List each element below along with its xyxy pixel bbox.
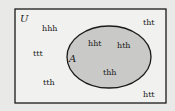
set-a-ellipse [67, 26, 151, 88]
element-inside: thh [103, 68, 117, 77]
set-a-label: A [68, 53, 76, 64]
element-outside: tth [43, 78, 55, 87]
element-inside: hht [88, 39, 102, 48]
element-outside: htt [143, 90, 155, 99]
element-outside: ttt [33, 49, 43, 58]
element-inside: hth [117, 41, 131, 50]
element-outside: hhh [42, 24, 57, 33]
venn-diagram: U A hhh ttt tth tht htt hht hth thh [0, 0, 175, 111]
universe-label: U [20, 13, 29, 24]
element-outside: tht [143, 18, 155, 27]
